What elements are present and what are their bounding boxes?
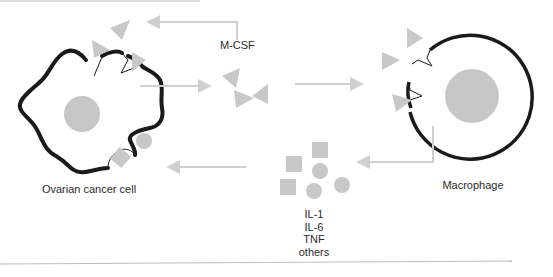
- ovarian-cancer-cell: [20, 51, 163, 173]
- cytokine-tnf: TNF: [299, 233, 330, 246]
- cancer-cell-nucleus: [64, 96, 100, 132]
- cytokine-cluster: [280, 142, 350, 199]
- mcsf-label: M-CSF: [220, 40, 255, 51]
- macrophage-receptor-top: [412, 50, 432, 66]
- arrows: [140, 22, 433, 167]
- bottom-rule: [0, 261, 512, 264]
- diagram-graphics: [0, 0, 553, 277]
- mcsf-ligands-near-macrophage: [382, 28, 423, 112]
- cytokine-il1: IL-1: [299, 208, 330, 221]
- cytokine-others: others: [299, 246, 330, 259]
- arrow-mcsf-autocrine: [158, 22, 237, 40]
- macrophage-cell: [408, 35, 532, 159]
- arrowhead-left-icon: [166, 160, 180, 174]
- arrowhead-left-icon: [146, 15, 160, 29]
- macrophage-receptor-bottom: [409, 82, 422, 108]
- macrophage-label: Macrophage: [442, 180, 503, 191]
- cytokine-list: IL-1 IL-6 TNF others: [299, 208, 330, 258]
- arrowhead-left-icon: [356, 155, 370, 169]
- arrowhead-right-icon: [350, 77, 364, 91]
- macrophage-nucleus: [445, 69, 499, 123]
- mcsf-ligands-center: [222, 68, 268, 108]
- arrow-macrophage-to-cytokines: [365, 126, 433, 162]
- cytokine-il6: IL-6: [299, 221, 330, 234]
- arrowhead-right-icon: [198, 79, 212, 93]
- bound-cytokine-circle: [136, 133, 152, 149]
- diagram-canvas: M-CSF Ovarian cancer cell Macrophage IL-…: [0, 0, 553, 277]
- mcsf-ligands-near-cancer-cell: [92, 20, 146, 72]
- cancer-cell-label: Ovarian cancer cell: [42, 184, 136, 195]
